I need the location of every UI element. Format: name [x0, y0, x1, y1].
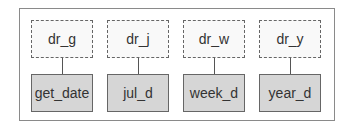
node-year-d: year_d — [259, 74, 321, 112]
connector-line — [62, 58, 63, 75]
node-dr-w: dr_w — [183, 20, 245, 58]
node-jul-d: jul_d — [107, 74, 169, 112]
node-dr-j: dr_j — [107, 20, 169, 58]
node-dr-y: dr_y — [259, 20, 321, 58]
connector-line — [138, 58, 139, 75]
connector-line — [290, 58, 291, 75]
connector-line — [214, 58, 215, 75]
node-dr-g: dr_g — [31, 20, 93, 58]
diagram-frame: dr_g get_date dr_j jul_d dr_w week_d dr_… — [19, 8, 335, 121]
node-get-date: get_date — [31, 74, 93, 112]
node-week-d: week_d — [183, 74, 245, 112]
